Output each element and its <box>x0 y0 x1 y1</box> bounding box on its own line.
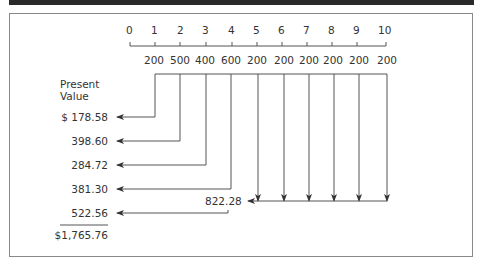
period-label: 5 <box>253 24 260 36</box>
cash-flow: 200 <box>274 54 294 66</box>
pv-value: $ 178.58 <box>50 111 108 123</box>
pv-value: 284.72 <box>50 159 108 171</box>
period-label: 9 <box>353 24 360 36</box>
period-label: 2 <box>177 24 184 36</box>
pv-value: 398.60 <box>50 135 108 147</box>
cash-flow: 200 <box>377 54 397 66</box>
period-label: 8 <box>328 24 335 36</box>
pv-total: $1,765.76 <box>50 229 108 241</box>
period-label: 3 <box>202 24 209 36</box>
cash-flow: 200 <box>144 54 164 66</box>
present-value-heading: Present <box>60 78 99 90</box>
cash-flow: 200 <box>247 54 267 66</box>
pv-value: 522.56 <box>50 207 108 219</box>
period-label: 0 <box>126 24 133 36</box>
cash-flow-diagram-lines <box>0 0 483 262</box>
cash-flow: 600 <box>221 54 241 66</box>
cash-flow: 500 <box>170 54 190 66</box>
period-label: 6 <box>278 24 285 36</box>
cash-flow: 400 <box>195 54 215 66</box>
pv-value: 381.30 <box>50 183 108 195</box>
period-label: 1 <box>151 24 158 36</box>
present-value-heading: Value <box>60 90 89 102</box>
period-label: 4 <box>228 24 235 36</box>
annuity-pv-value: 822.28 <box>205 195 242 207</box>
period-label: 10 <box>378 24 391 36</box>
period-label: 7 <box>303 24 310 36</box>
cash-flow: 200 <box>299 54 319 66</box>
cash-flow: 200 <box>323 54 343 66</box>
cash-flow: 200 <box>349 54 369 66</box>
